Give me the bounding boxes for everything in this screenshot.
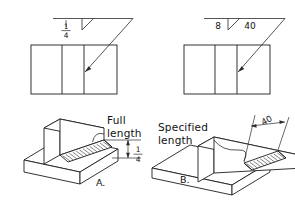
dim-denominator-a: 4 [136,155,141,164]
weld-size-denominator-a: 4 [64,31,69,40]
weld-length-b: 40 [244,21,256,31]
dim-arrow-b-right [279,120,285,124]
dim-arrow-a-top [126,140,130,145]
plan-outline-a [31,45,117,94]
technical-drawing-canvas: 1 4 8 40 [0,0,295,201]
plan-outline-b [184,45,270,94]
caption-a: A. [96,177,105,188]
leader-arrowhead-b [238,66,244,72]
full-length-label-line1: Fulllength [107,114,142,139]
fillet-weld-triangle-icon-a [82,19,94,31]
weld-size-numerator-a: 1 [64,22,69,31]
leader-arrowhead-a [85,66,91,72]
isometric-joint-a [24,119,118,184]
plan-view-a [31,45,117,94]
caption-b: B. [180,174,190,185]
dim-numerator-a: 1 [136,145,141,154]
dim-value-b: 40 [259,113,273,127]
dim-arrow-a-bottom [126,153,130,158]
plan-view-b [184,45,270,94]
fillet-weld-triangle-icon-b [228,19,240,31]
weld-size-b: 8 [215,21,221,31]
specified-length-label-line1: Specifiedlength [158,121,208,146]
